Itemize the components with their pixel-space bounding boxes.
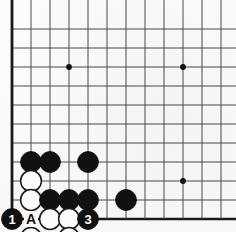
black-stone[interactable] (116, 190, 137, 211)
white-stone[interactable] (40, 209, 61, 230)
black-stone[interactable] (78, 152, 99, 173)
board-point-labels: A (24, 211, 38, 227)
hoshi-lower-right-icon (180, 178, 186, 184)
black-stone-disc (78, 190, 99, 211)
white-stone[interactable] (59, 209, 80, 230)
black-stone-move-1[interactable]: 1 (2, 209, 23, 230)
white-stone[interactable] (21, 171, 42, 192)
black-stone[interactable] (59, 190, 80, 211)
white-stone-disc (21, 190, 42, 211)
black-stone-disc (21, 152, 42, 173)
black-stone-disc (116, 190, 137, 211)
white-stone-move-2[interactable]: 2 (21, 228, 42, 232)
stone-move-number: 2 (27, 231, 34, 232)
white-stone-disc (59, 209, 80, 230)
white-stone[interactable] (21, 190, 42, 211)
black-stone-disc (59, 190, 80, 211)
black-stone[interactable] (21, 152, 42, 173)
hoshi-upper-left-icon (66, 64, 72, 70)
white-stone-move-4[interactable]: 4 (59, 228, 80, 232)
black-stone[interactable] (40, 152, 61, 173)
black-stone[interactable] (78, 190, 99, 211)
black-stone-disc (40, 190, 61, 211)
black-stone-disc (78, 152, 99, 173)
stone-move-number: 1 (8, 212, 15, 227)
black-stone-disc (40, 152, 61, 173)
stone-move-number: 4 (65, 231, 73, 232)
black-stone-move-3[interactable]: 3 (78, 209, 99, 230)
hoshi-upper-right-icon (180, 64, 186, 70)
board-point-label-a: A (26, 211, 36, 227)
white-stone-disc (21, 171, 42, 192)
go-board-canvas[interactable]: 1324 A (0, 0, 236, 232)
go-board-diagram: 1324 A (0, 0, 236, 232)
stone-move-number: 3 (84, 212, 91, 227)
white-stone-disc (40, 209, 61, 230)
black-stone[interactable] (40, 190, 61, 211)
board-grid (12, 0, 236, 219)
